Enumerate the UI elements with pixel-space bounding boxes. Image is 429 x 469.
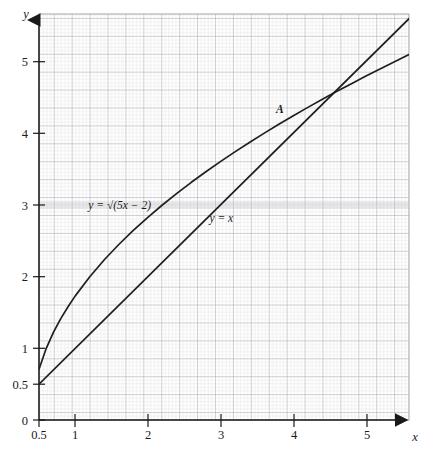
y-tick-label: 1: [22, 342, 28, 356]
y-tick-label: 0.5: [12, 378, 28, 392]
x-tick-label: 0.5: [31, 428, 47, 442]
y-tick-label: 3: [22, 199, 28, 213]
y-tick-label: 0: [22, 414, 28, 428]
curve-label-line: y = x: [209, 212, 235, 225]
chart-figure: 0.5 1 2 3 4 5 0 0.5 1 2 3 4 5 y x y = √(…: [0, 0, 429, 469]
curve-label-sqrt: y = √(5x − 2): [87, 199, 151, 212]
x-tick-label: 4: [291, 428, 298, 442]
x-tick-label: 1: [72, 428, 78, 442]
x-tick-label: 5: [364, 428, 370, 442]
y-tick-label: 2: [22, 270, 28, 284]
y-axis-label: y: [21, 7, 29, 21]
x-axis-label: x: [411, 430, 418, 444]
x-tick-label: 2: [145, 428, 151, 442]
point-a-label: A: [275, 103, 284, 115]
annotation-point-a: A: [275, 103, 284, 115]
y-tick-label: 5: [22, 55, 28, 69]
y-tick-label: 4: [22, 127, 29, 141]
graph-svg: 0.5 1 2 3 4 5 0 0.5 1 2 3 4 5 y x y = √(…: [0, 0, 429, 469]
x-tick-labels: 0.5 1 2 3 4 5: [31, 428, 370, 442]
y-tick-labels: 0 0.5 1 2 3 4 5: [12, 55, 28, 427]
x-tick-label: 3: [218, 428, 224, 442]
